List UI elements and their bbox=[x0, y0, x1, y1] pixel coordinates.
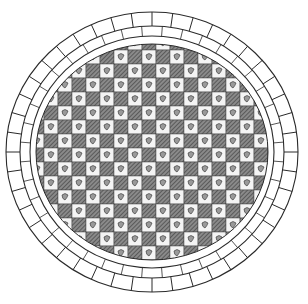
cell-cross-section-illustration bbox=[0, 0, 308, 304]
